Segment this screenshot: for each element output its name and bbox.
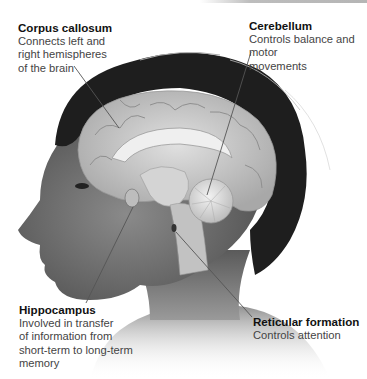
label-hippocampus: Hippocampus Involved in transfer of info… bbox=[19, 303, 139, 371]
label-title: Corpus callosum bbox=[18, 21, 128, 35]
label-cerebellum: Cerebellum Controls balance and motor mo… bbox=[249, 19, 367, 73]
label-description: Involved in transfer of information from… bbox=[19, 317, 139, 371]
label-description: Controls attention bbox=[253, 329, 367, 343]
label-title: Cerebellum bbox=[249, 19, 367, 33]
label-title: Reticular formation bbox=[253, 315, 367, 329]
eye bbox=[75, 183, 89, 189]
label-title: Hippocampus bbox=[19, 303, 139, 317]
reticular-formation-shape bbox=[172, 224, 177, 232]
label-description: Connects left and right hemispheres of t… bbox=[18, 35, 128, 76]
hippocampus-shape bbox=[125, 189, 139, 207]
label-corpus-callosum: Corpus callosum Connects left and right … bbox=[18, 21, 128, 75]
label-description: Controls balance and motor movements bbox=[249, 33, 367, 74]
label-reticular-formation: Reticular formation Controls attention bbox=[253, 315, 367, 342]
